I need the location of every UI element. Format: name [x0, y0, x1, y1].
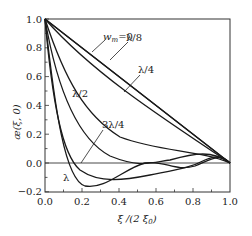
x-tick-0-4: 0.4	[111, 196, 127, 207]
label-lambda-8: λ/8	[126, 32, 142, 43]
label-leaders	[81, 40, 140, 163]
x-tick-0-2: 0.2	[74, 196, 90, 207]
label-lambda-2: λ/2	[72, 88, 88, 99]
x-tick-labels: 0.0 0.2 0.4 0.6 0.8 1.0	[37, 196, 238, 207]
label-lambda: λ	[63, 172, 70, 183]
curves	[45, 19, 230, 186]
line-chart: 1.0 0.8 0.6 0.4 0.2 0.0 −0.2 0.0 0.2 0.4…	[0, 0, 252, 236]
y-axis-title: æ(ξ, 0)	[11, 104, 22, 140]
x-tick-1-0: 1.0	[222, 196, 238, 207]
y-tick-1-0: 1.0	[26, 14, 42, 25]
x-axis-title: ξ/(2 ξ0)	[117, 213, 156, 226]
x-axis-ticks	[64, 188, 212, 192]
x-tick-0-8: 0.8	[185, 196, 201, 207]
y-tick-0-8: 0.8	[26, 42, 42, 53]
x-tick-0-6: 0.6	[148, 196, 164, 207]
y-tick-0-4: 0.4	[26, 100, 42, 111]
y-tick-0-6: 0.6	[26, 71, 42, 82]
x-tick-0-0: 0.0	[37, 196, 53, 207]
y-tick-0-2: 0.2	[26, 129, 42, 140]
label-3lambda-4: 3λ/4	[102, 119, 124, 130]
label-lambda-4: λ/4	[138, 64, 154, 75]
y-tick-0-0: 0.0	[26, 158, 42, 169]
